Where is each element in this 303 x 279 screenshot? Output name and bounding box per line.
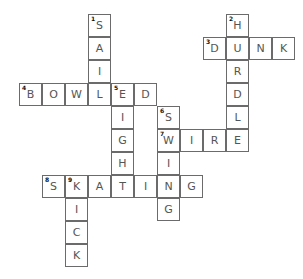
crossword-cell[interactable]: N xyxy=(157,175,180,198)
cell-letter: G xyxy=(158,203,179,216)
cell-letter: O xyxy=(43,88,64,101)
crossword-cell[interactable]: R xyxy=(226,60,249,83)
cell-letter: S xyxy=(43,180,64,193)
cell-letter: L xyxy=(227,111,248,124)
cell-letter: S xyxy=(89,19,110,32)
cell-letter: K xyxy=(66,249,87,262)
cell-letter: W xyxy=(158,134,179,147)
crossword-cell[interactable]: H xyxy=(111,152,134,175)
crossword-cell[interactable]: L xyxy=(88,83,111,106)
crossword-cell[interactable]: I xyxy=(157,152,180,175)
crossword-cell[interactable]: R xyxy=(203,129,226,152)
cell-letter: E xyxy=(112,88,133,101)
cell-letter: G xyxy=(112,134,133,147)
crossword-cell[interactable]: K xyxy=(65,244,88,267)
cell-letter: D xyxy=(135,88,156,101)
cell-letter: A xyxy=(89,180,110,193)
cell-letter: K xyxy=(66,180,87,193)
cell-letter: C xyxy=(66,226,87,239)
crossword-cell[interactable]: 5E xyxy=(111,83,134,106)
crossword-cell[interactable]: K xyxy=(272,37,295,60)
crossword-cell[interactable]: E xyxy=(226,129,249,152)
crossword-cell[interactable]: I xyxy=(134,175,157,198)
cell-letter: I xyxy=(66,203,87,216)
crossword-cell[interactable]: T xyxy=(111,175,134,198)
crossword-cell[interactable]: L xyxy=(226,106,249,129)
crossword-cell[interactable]: U xyxy=(226,37,249,60)
crossword-cell[interactable]: 3D xyxy=(203,37,226,60)
crossword-cell[interactable]: I xyxy=(111,106,134,129)
crossword-cell[interactable]: G xyxy=(157,198,180,221)
crossword-cell[interactable]: O xyxy=(42,83,65,106)
cell-letter: D xyxy=(227,88,248,101)
cell-letter: I xyxy=(158,157,179,170)
crossword-cell[interactable]: 2H xyxy=(226,14,249,37)
crossword-grid: 1SAIL2HURDLE3DNK4BOW5EDIGHT6S7WINGIR8S9K… xyxy=(0,0,303,279)
crossword-cell[interactable]: 6S xyxy=(157,106,180,129)
crossword-cell[interactable]: I xyxy=(180,129,203,152)
cell-letter: R xyxy=(204,134,225,147)
crossword-cell[interactable]: D xyxy=(226,83,249,106)
crossword-cell[interactable]: 4B xyxy=(19,83,42,106)
cell-letter: D xyxy=(204,42,225,55)
cell-letter: N xyxy=(158,180,179,193)
crossword-cell[interactable]: A xyxy=(88,175,111,198)
cell-letter: I xyxy=(181,134,202,147)
crossword-cell[interactable]: 1S xyxy=(88,14,111,37)
cell-letter: R xyxy=(227,65,248,78)
cell-letter: H xyxy=(227,19,248,32)
cell-letter: K xyxy=(273,42,294,55)
cell-letter: I xyxy=(135,180,156,193)
cell-letter: B xyxy=(20,88,41,101)
cell-letter: S xyxy=(158,111,179,124)
crossword-cell[interactable]: G xyxy=(111,129,134,152)
crossword-cell[interactable]: A xyxy=(88,37,111,60)
cell-letter: G xyxy=(181,180,202,193)
cell-letter: H xyxy=(112,157,133,170)
cell-letter: I xyxy=(112,111,133,124)
crossword-cell[interactable]: G xyxy=(180,175,203,198)
crossword-cell[interactable]: I xyxy=(65,198,88,221)
cell-letter: T xyxy=(112,180,133,193)
cell-letter: W xyxy=(66,88,87,101)
cell-letter: A xyxy=(89,42,110,55)
crossword-cell[interactable]: 8S xyxy=(42,175,65,198)
crossword-cell[interactable]: W xyxy=(65,83,88,106)
crossword-cell[interactable]: N xyxy=(249,37,272,60)
cell-letter: U xyxy=(227,42,248,55)
crossword-cell[interactable]: 7W xyxy=(157,129,180,152)
crossword-cell[interactable]: I xyxy=(88,60,111,83)
crossword-cell[interactable]: D xyxy=(134,83,157,106)
crossword-cell[interactable]: C xyxy=(65,221,88,244)
cell-letter: E xyxy=(227,134,248,147)
crossword-cell[interactable]: 9K xyxy=(65,175,88,198)
cell-letter: I xyxy=(89,65,110,78)
cell-letter: L xyxy=(89,88,110,101)
cell-letter: N xyxy=(250,42,271,55)
